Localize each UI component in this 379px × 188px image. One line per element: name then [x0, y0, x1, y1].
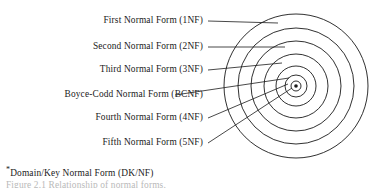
leader-lines-group: [175, 21, 292, 143]
label-4nf: Fourth Normal Form (4NF): [95, 113, 203, 122]
leader-line-5nf: [208, 88, 292, 143]
footnote-dknf: *Domain/Key Normal Form (DK/NF): [6, 166, 153, 179]
center-dot: [294, 84, 298, 88]
figure-caption: Figure 2.1 Relationship of normal forms.: [6, 181, 166, 188]
label-2nf: Second Normal Form (2NF): [93, 42, 203, 51]
leader-line-4nf: [208, 84, 288, 118]
label-5nf: Fifth Normal Form (5NF): [102, 138, 203, 147]
label-bcnf: Boyce-Codd Normal Form (BCNF): [65, 90, 203, 99]
label-1nf: First Normal Form (1NF): [103, 16, 203, 25]
figure-container: First Normal Form (1NF) Second Normal Fo…: [0, 0, 379, 188]
footnote-label: Domain/Key Normal Form (DK/NF): [10, 168, 153, 178]
label-3nf: Third Normal Form (3NF): [100, 65, 203, 74]
leader-line-1nf: [208, 21, 278, 23]
